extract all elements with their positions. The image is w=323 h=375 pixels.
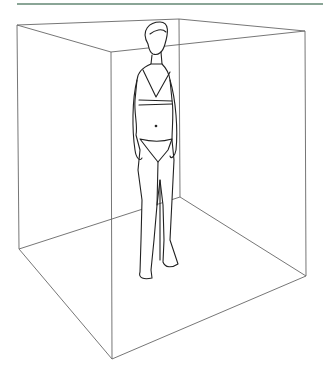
human-figure [133,22,178,279]
cube-figure-illustration [0,0,323,375]
